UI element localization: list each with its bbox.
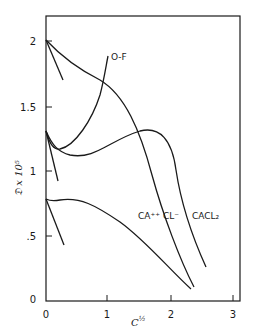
x-axis-label: C½	[131, 315, 146, 328]
diffusion-chart: 2 1.5 1 .5 0 0 1 2 3 𝔇 x 10⁵ C½ O-F CA⁺⁺…	[0, 0, 253, 333]
y-tick-label-0: 0	[30, 294, 36, 305]
curve-o-f	[46, 56, 108, 149]
y-tick-label-1.5: 1.5	[20, 102, 36, 113]
x-tick-label-0: 0	[43, 309, 49, 320]
curve-label-ca: CA⁺⁺	[138, 211, 160, 221]
x-tick-label-2: 2	[168, 309, 174, 320]
y-axis-label: 𝔇 x 10⁵	[13, 160, 24, 196]
y-tick-label-2: 2	[30, 36, 36, 47]
curve-label-cacl2: CACL₂	[192, 211, 220, 221]
y-tick-label-1: 1	[30, 166, 36, 177]
curve-label-o-f: O-F	[111, 52, 127, 62]
x-tick-label-1: 1	[104, 309, 110, 320]
slope-line-ca	[46, 199, 64, 245]
y-tick-label-0.5: .5	[26, 231, 36, 242]
slope-line-cacl2	[46, 131, 58, 181]
curve-label-cl: CL⁻	[163, 211, 179, 221]
slope-line-cl	[46, 40, 63, 80]
x-axis-ticks	[107, 295, 233, 301]
curves	[46, 40, 206, 289]
curve-cacl2	[46, 130, 206, 267]
plot-frame	[46, 16, 240, 301]
curve-cl	[46, 40, 194, 287]
x-tick-label-3: 3	[230, 309, 236, 320]
